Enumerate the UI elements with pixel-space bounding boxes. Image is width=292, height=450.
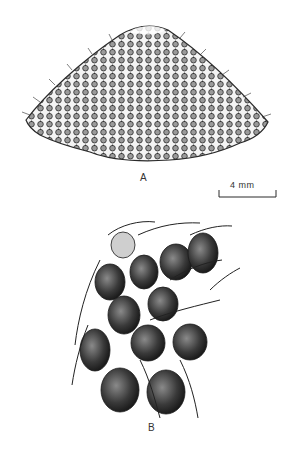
panel-a-dome	[22, 26, 271, 161]
figure-illustration	[0, 0, 292, 450]
scale-bar	[219, 190, 276, 197]
panel-b-cells	[72, 222, 240, 418]
panel-a-label: A	[140, 172, 147, 183]
panel-b-label: B	[148, 422, 155, 433]
scale-bar-label: 4 mm	[230, 180, 255, 190]
